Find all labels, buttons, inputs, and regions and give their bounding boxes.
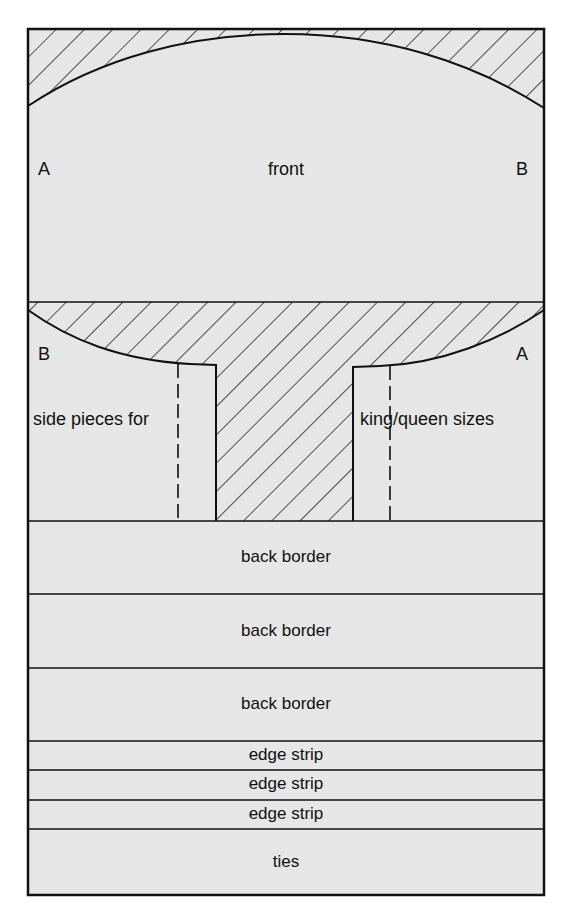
back-border-label-3: back border bbox=[241, 695, 331, 712]
back-border-label-2: back border bbox=[241, 622, 331, 639]
front-label: front bbox=[268, 160, 304, 178]
front-right-marker: B bbox=[516, 160, 528, 178]
ties-label: ties bbox=[273, 853, 299, 870]
king-queen-sizes-label: king/queen sizes bbox=[360, 410, 494, 428]
side-pieces-label: side pieces for bbox=[33, 410, 149, 428]
front-left-marker: A bbox=[38, 160, 50, 178]
edge-strip-label-1: edge strip bbox=[249, 746, 324, 763]
edge-strip-label-2: edge strip bbox=[249, 775, 324, 792]
back-border-label-1: back border bbox=[241, 548, 331, 565]
side-right-marker: A bbox=[516, 345, 528, 363]
edge-strip-label-3: edge strip bbox=[249, 805, 324, 822]
side-left-marker: B bbox=[38, 345, 50, 363]
